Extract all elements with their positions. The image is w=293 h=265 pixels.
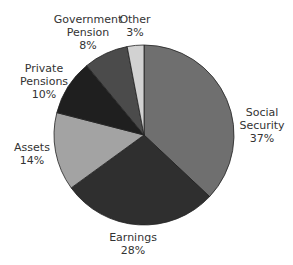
label-line: Assets [14,141,50,154]
label-line: Pensions [20,75,68,88]
label-value: 3% [119,26,150,39]
label-value: 28% [109,244,157,257]
label-line: Pension [54,26,123,39]
label-value: 8% [54,39,123,52]
label-line: Security [239,119,284,132]
label-private-pensions: PrivatePensions10% [20,62,68,101]
label-other: Other3% [119,13,150,39]
label-line: Private [20,62,68,75]
label-value: 14% [14,154,50,167]
label-line: Government [54,13,123,26]
label-line: Other [119,13,150,26]
label-earnings: Earnings28% [109,231,157,257]
label-value: 37% [239,132,284,145]
label-line: Social [239,106,284,119]
label-government-pension: GovernmentPension8% [54,13,123,52]
label-assets: Assets14% [14,141,50,167]
label-value: 10% [20,88,68,101]
label-line: Earnings [109,231,157,244]
label-social-security: SocialSecurity37% [239,106,284,145]
